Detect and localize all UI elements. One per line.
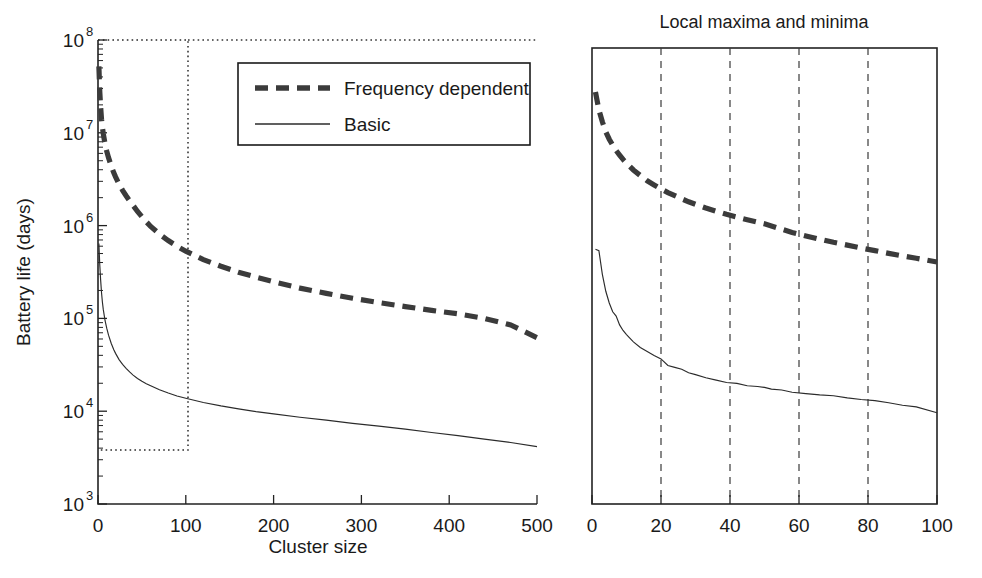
- x-tick-label: 500: [521, 515, 553, 536]
- left-y-axis-title: Battery life (days): [13, 198, 34, 346]
- right-series-group: [595, 92, 937, 413]
- y-tick-exponent: 3: [86, 488, 93, 503]
- right-axes-frame: [592, 48, 937, 504]
- y-tick-exponent: 7: [86, 117, 93, 132]
- x-tick-label: 400: [433, 515, 465, 536]
- x-tick-label: 0: [93, 515, 104, 536]
- y-tick-exponent: 5: [86, 302, 93, 317]
- y-tick-label: 10: [63, 216, 84, 237]
- right-x-tick-labels: 020406080100: [587, 515, 953, 536]
- x-tick-label: 0: [587, 515, 598, 536]
- left-y-tick-labels: 103104105106107108: [63, 24, 93, 515]
- right-chart-panel: 020406080100 Local maxima and minima: [560, 0, 982, 578]
- right-grid-lines: [661, 48, 868, 504]
- y-tick-label: 10: [63, 30, 84, 51]
- y-tick-exponent: 6: [86, 210, 93, 225]
- legend-label-frequency-dependent: Frequency dependent: [344, 78, 530, 99]
- x-tick-label: 100: [170, 515, 202, 536]
- series-basic-line: [99, 244, 537, 447]
- series-frequency-dependent-line: [595, 92, 937, 262]
- x-tick-label: 40: [719, 515, 740, 536]
- y-tick-label: 10: [63, 494, 84, 515]
- left-x-axis-title: Cluster size: [268, 536, 367, 557]
- x-tick-label: 200: [258, 515, 290, 536]
- legend-label-basic: Basic: [344, 114, 390, 135]
- y-tick-exponent: 4: [86, 395, 93, 410]
- x-tick-label: 60: [788, 515, 809, 536]
- left-x-axis-ticks: [98, 495, 537, 504]
- left-chart-panel: 103104105106107108 0100200300400500 Clus…: [0, 0, 560, 578]
- left-x-tick-labels: 0100200300400500: [93, 515, 553, 536]
- right-x-axis-ticks: [592, 495, 937, 504]
- right-chart-svg: 020406080100 Local maxima and minima: [560, 0, 982, 578]
- x-tick-label: 20: [650, 515, 671, 536]
- x-tick-label: 100: [921, 515, 953, 536]
- y-tick-label: 10: [63, 123, 84, 144]
- series-basic-line: [595, 249, 937, 412]
- y-tick-exponent: 8: [86, 24, 93, 39]
- y-tick-label: 10: [63, 308, 84, 329]
- x-tick-label: 80: [857, 515, 878, 536]
- legend: Frequency dependent Basic: [238, 63, 530, 145]
- left-chart-svg: 103104105106107108 0100200300400500 Clus…: [0, 0, 560, 578]
- y-tick-label: 10: [63, 401, 84, 422]
- figure-canvas: 103104105106107108 0100200300400500 Clus…: [0, 0, 982, 578]
- right-panel-title: Local maxima and minima: [659, 12, 869, 32]
- x-tick-label: 300: [346, 515, 378, 536]
